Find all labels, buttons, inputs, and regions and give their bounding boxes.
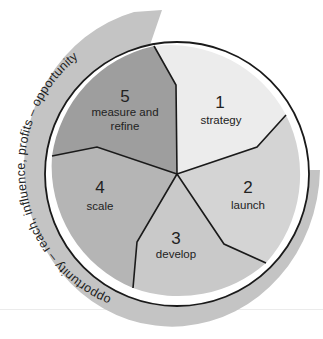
cycle-diagram: 1 strategy 2 launch 3 develop 4 scale 5 … bbox=[0, 0, 323, 339]
segment-5-number: 5 bbox=[120, 87, 129, 106]
segment-3-text: develop bbox=[156, 248, 196, 260]
segment-5-text-line2: refine bbox=[111, 120, 140, 132]
segment-5-text-line1: measure and bbox=[91, 106, 158, 118]
segment-2-text: launch bbox=[231, 199, 265, 211]
segment-1-text: strategy bbox=[201, 114, 242, 126]
segment-1-number: 1 bbox=[215, 93, 224, 112]
segment-4-number: 4 bbox=[95, 178, 104, 197]
segment-3-number: 3 bbox=[171, 229, 180, 248]
segment-2-number: 2 bbox=[243, 178, 252, 197]
segment-4-text: scale bbox=[87, 200, 114, 212]
